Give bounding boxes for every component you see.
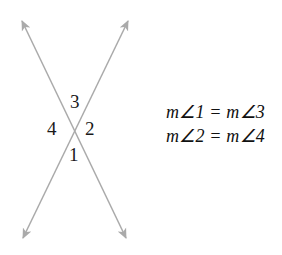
angle-label-1: 1 — [69, 145, 79, 164]
angle-label-4: 4 — [47, 119, 57, 138]
equation-line-1: m∠1 = m∠3 — [166, 100, 278, 124]
angle-label-3: 3 — [70, 92, 80, 111]
line-upper-right-to-lower-left — [23, 21, 128, 238]
equation-line-2: m∠2 = m∠4 — [166, 124, 278, 148]
angle-label-2: 2 — [85, 119, 95, 138]
line-upper-left-to-lower-right — [22, 21, 126, 238]
equation-block: m∠1 = m∠3 m∠2 = m∠4 — [166, 100, 278, 148]
vertical-angles-figure: 3 4 2 1 m∠1 = m∠3 m∠2 = m∠4 — [0, 0, 282, 255]
